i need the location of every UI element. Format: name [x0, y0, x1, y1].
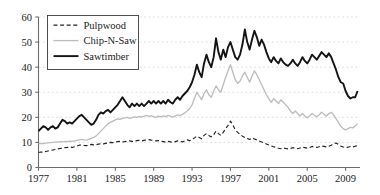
legend-label-chip-n-saw: Chip-N-Saw — [84, 35, 137, 46]
chart-legend: PulpwoodChip-N-SawSawtimber — [48, 16, 139, 70]
x-tick-label-1981: 1981 — [66, 173, 87, 184]
x-tick-label-2005: 2005 — [297, 173, 318, 184]
x-axis-tick-labels: 197719811985198919931997200120052009 — [28, 173, 356, 184]
y-tick-label-10: 10 — [22, 137, 33, 148]
legend-label-sawtimber: Sawtimber — [84, 51, 130, 62]
legend-label-pulpwood: Pulpwood — [84, 20, 127, 31]
timber-price-chart: 0102030405060 19771981198519891993199720… — [0, 0, 380, 195]
x-tick-label-2001: 2001 — [258, 173, 279, 184]
y-tick-label-60: 60 — [22, 12, 33, 23]
chart-canvas: 0102030405060 19771981198519891993199720… — [0, 0, 380, 195]
x-tick-label-1977: 1977 — [28, 173, 49, 184]
y-axis-tick-labels: 0102030405060 — [22, 12, 33, 174]
x-tick-label-1985: 1985 — [105, 173, 126, 184]
x-tick-label-1989: 1989 — [143, 173, 164, 184]
y-tick-label-50: 50 — [22, 37, 33, 48]
series-line-chip-n-saw — [39, 65, 358, 144]
y-tick-label-40: 40 — [22, 62, 33, 73]
x-tick-label-1997: 1997 — [220, 173, 241, 184]
series-line-pulpwood — [39, 121, 358, 152]
y-tick-label-0: 0 — [27, 162, 32, 173]
y-tick-label-30: 30 — [22, 87, 33, 98]
x-tick-label-1993: 1993 — [182, 173, 203, 184]
x-tick-label-2009: 2009 — [335, 173, 356, 184]
y-tick-label-20: 20 — [22, 112, 33, 123]
